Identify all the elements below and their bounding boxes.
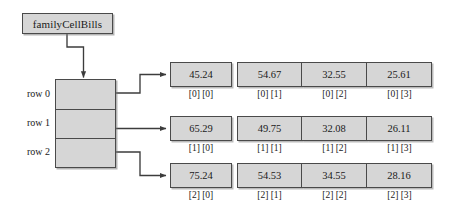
array-cell-value: 32.55 <box>322 69 346 80</box>
array-cell: 49.75 <box>237 116 302 141</box>
array-cell: 34.55 <box>302 163 367 188</box>
array-cell: 28.16 <box>367 163 432 188</box>
variable-label-box: familyCellBills <box>22 13 113 34</box>
array-cell-index: [1] [0] <box>170 143 232 153</box>
array-cell: 25.61 <box>367 62 432 87</box>
array-cell-index: [1] [2] <box>302 143 367 153</box>
array-reference-diagram: familyCellBills row 0 row 1 row 2 45.24 … <box>0 0 455 217</box>
array-cell: 32.08 <box>302 116 367 141</box>
array-cell-index: [2] [1] <box>237 190 302 200</box>
array-cell-value: 26.11 <box>387 123 410 134</box>
array-cell-value: 45.24 <box>189 69 213 80</box>
array-cell: 32.55 <box>302 62 367 87</box>
array-cell-value: 28.16 <box>387 170 411 181</box>
variable-name: familyCellBills <box>33 18 102 30</box>
array-cell-index: [0] [2] <box>302 89 367 99</box>
array-cell: 26.11 <box>367 116 432 141</box>
array-cell: 75.24 <box>170 163 232 188</box>
array-cell: 65.29 <box>170 116 232 141</box>
array-cell-index: [2] [2] <box>302 190 367 200</box>
row-label-2: row 2 <box>0 146 50 157</box>
array-cell-value: 25.61 <box>387 69 411 80</box>
row-label-0: row 0 <box>0 88 50 99</box>
array-cell-value: 65.29 <box>189 123 213 134</box>
array-cell-value: 54.53 <box>258 170 282 181</box>
reference-box <box>55 79 116 168</box>
array-cell: 54.67 <box>237 62 302 87</box>
array-cell-index: [0] [1] <box>237 89 302 99</box>
array-cell-value: 49.75 <box>258 123 282 134</box>
array-cell: 54.53 <box>237 163 302 188</box>
array-cell-index: [1] [3] <box>367 143 432 153</box>
array-cell-index: [1] [1] <box>237 143 302 153</box>
array-cell-value: 34.55 <box>322 170 346 181</box>
reference-cell-row-2 <box>56 138 115 167</box>
array-cell-index: [0] [0] <box>170 89 232 99</box>
row-label-1: row 1 <box>0 117 50 128</box>
array-cell-index: [2] [3] <box>367 190 432 200</box>
array-cell: 45.24 <box>170 62 232 87</box>
reference-cell-row-1 <box>56 109 115 138</box>
array-cell-value: 32.08 <box>322 123 346 134</box>
array-cell-value: 54.67 <box>258 69 282 80</box>
array-cell-value: 75.24 <box>189 170 213 181</box>
reference-cell-row-0 <box>56 80 115 109</box>
array-cell-index: [2] [0] <box>170 190 232 200</box>
array-cell-index: [0] [3] <box>367 89 432 99</box>
